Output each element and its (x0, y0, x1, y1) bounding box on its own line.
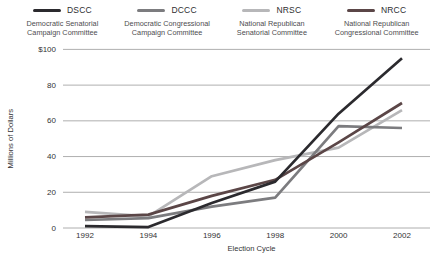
legend-item-nrcc: NRCC National Republican Congressional C… (324, 4, 429, 42)
y-tick-label-100: $100 (38, 45, 56, 54)
x-tick-label-2000: 2000 (330, 231, 348, 240)
x-tick-label-1996: 1996 (203, 231, 221, 240)
y-axis-title: Millions of Dollars (6, 109, 15, 169)
legend-item-dccc: DCCC Democratic Congressional Campaign C… (115, 4, 220, 42)
dscc-acronym: DSCC (67, 5, 92, 15)
series-line-nrcc (85, 103, 402, 217)
x-tick-label-1992: 1992 (76, 231, 94, 240)
y-tick-label-20: 20 (47, 188, 56, 197)
x-axis-title: Election Cycle (227, 244, 275, 253)
line-chart: 020406080$100199219941996199820002002Ele… (0, 42, 435, 260)
nrsc-acronym: NRSC (276, 5, 301, 15)
x-tick-label-2002: 2002 (393, 231, 411, 240)
dscc-full-name: Democratic Senatorial Campaign Committee (26, 19, 98, 37)
y-tick-label-40: 40 (47, 152, 56, 161)
chart-legend: DSCC Democratic Senatorial Campaign Comm… (0, 0, 435, 42)
y-tick-label-60: 60 (47, 116, 56, 125)
line-chart-svg: 020406080$100199219941996199820002002Ele… (0, 42, 435, 260)
dccc-line-swatch (137, 9, 165, 12)
nrcc-line-swatch (347, 9, 375, 12)
x-tick-label-1998: 1998 (266, 231, 284, 240)
figure: DSCC Democratic Senatorial Campaign Comm… (0, 0, 435, 260)
series-line-dccc (85, 126, 402, 220)
nrsc-line-swatch (242, 9, 270, 12)
nrcc-full-name: National Republican Congressional Commit… (335, 19, 419, 37)
legend-item-nrsc: NRSC National Republican Senatorial Comm… (220, 4, 325, 42)
y-tick-label-80: 80 (47, 81, 56, 90)
dscc-line-swatch (33, 9, 61, 12)
y-tick-label-0: 0 (52, 224, 57, 233)
nrsc-full-name: National Republican Senatorial Committee (237, 19, 307, 37)
dccc-acronym: DCCC (171, 5, 196, 15)
nrcc-acronym: NRCC (381, 5, 406, 15)
x-tick-label-1994: 1994 (140, 231, 158, 240)
dccc-full-name: Democratic Congressional Campaign Commit… (124, 19, 210, 37)
legend-item-dscc: DSCC Democratic Senatorial Campaign Comm… (10, 4, 115, 42)
